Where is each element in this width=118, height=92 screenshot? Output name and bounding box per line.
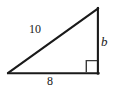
hypotenuse-length-label: 10: [29, 23, 41, 35]
base-leg-length-label: 8: [47, 75, 53, 87]
vertical-leg-variable-label: b: [101, 35, 108, 48]
right-triangle-figure: 10 b 8: [0, 0, 118, 92]
